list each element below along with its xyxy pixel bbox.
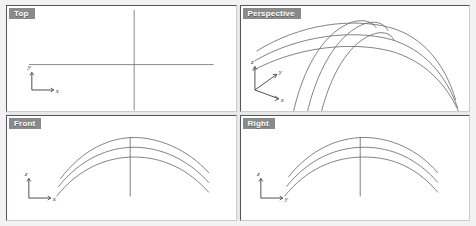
viewport-title-front[interactable]: Front: [9, 118, 41, 129]
cad-application-window: Top y x Perspective: [0, 0, 476, 226]
viewport-right[interactable]: Right z y: [240, 115, 471, 222]
geometry-right: [284, 137, 437, 196]
viewport-canvas-front[interactable]: z x: [7, 116, 236, 221]
viewport-grid: Top y x Perspective: [6, 5, 470, 221]
gizmo-axis-label-x: x: [279, 96, 283, 103]
axis-gizmo-perspective: z y x: [249, 58, 283, 103]
steep-arc-1: [292, 21, 375, 111]
arc-inner: [284, 157, 437, 196]
viewport-title-top[interactable]: Top: [9, 8, 35, 19]
viewport-canvas-perspective[interactable]: z y x: [241, 6, 470, 111]
long-arc-2: [254, 35, 457, 108]
axis-gizmo-right: z y: [255, 169, 288, 201]
viewport-perspective[interactable]: Perspective z y x: [240, 5, 471, 112]
gizmo-axis-label-y: y: [277, 68, 282, 75]
gizmo-axis-label-x: x: [55, 87, 59, 94]
viewport-canvas-top[interactable]: y x: [7, 6, 236, 111]
geometry-front: [57, 137, 209, 196]
long-arc-3: [252, 46, 459, 110]
steep-arc-2: [306, 22, 387, 110]
steep-arc-3: [320, 33, 394, 111]
geometry-perspective: [252, 21, 459, 111]
gizmo-axis-label-z: z: [24, 169, 28, 176]
axis-gizmo-front: z x: [24, 169, 56, 201]
gizmo-axis-label-x: x: [52, 195, 56, 202]
viewport-front[interactable]: Front z x: [6, 115, 237, 222]
geometry-top: [29, 10, 214, 111]
viewport-title-perspective[interactable]: Perspective: [243, 8, 301, 19]
gizmo-axis-label-y: y: [283, 195, 288, 202]
viewport-top[interactable]: Top y x: [6, 5, 237, 112]
viewport-canvas-right[interactable]: z y: [241, 116, 470, 221]
gizmo-axis-label-z: z: [255, 169, 259, 176]
viewport-title-right[interactable]: Right: [243, 118, 275, 129]
axis-gizmo-top: y x: [27, 64, 59, 94]
gizmo-axis-label-z: z: [249, 58, 253, 65]
